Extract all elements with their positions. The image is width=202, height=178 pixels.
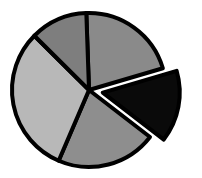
pie-slices [12, 13, 180, 167]
pie-chart [0, 0, 202, 178]
